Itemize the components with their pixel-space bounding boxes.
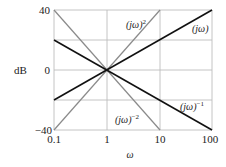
x-tick-100: 100 xyxy=(202,133,219,145)
x-tick-1: 1 xyxy=(104,133,110,145)
y-tick-40: 40 xyxy=(39,4,51,16)
x-tick-0-1: 0.1 xyxy=(47,133,61,145)
y-axis-label: dB xyxy=(14,64,27,76)
label-jw-inverse-squared: (jω)−2 xyxy=(115,113,139,126)
label-jw-inverse: (jω)−1 xyxy=(180,100,204,113)
x-axis-label: ω xyxy=(126,149,133,160)
x-tick-10: 10 xyxy=(155,133,167,145)
bode-chart: 40 0 −40 dB 0.1 1 10 100 ω (jω)2 (jω) (j… xyxy=(0,0,226,167)
label-jw: (jω) xyxy=(192,23,209,35)
y-tick-0: 0 xyxy=(45,64,51,76)
